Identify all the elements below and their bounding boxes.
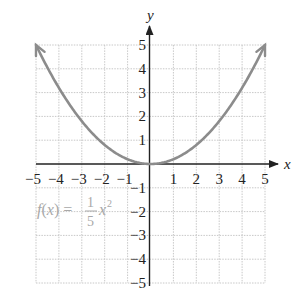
x-tick-labels: −5−4−3−2−112345 (25, 171, 269, 187)
y-axis-label: y (145, 7, 154, 23)
y-tick-label: −5 (130, 275, 146, 291)
y-tick-label: −1 (130, 180, 146, 196)
parabola-curve (36, 45, 265, 164)
y-tick-label: 3 (139, 85, 147, 101)
x-tick-label: 4 (238, 171, 246, 187)
svg-text:2: 2 (107, 198, 112, 209)
x-tick-label: −4 (48, 171, 64, 187)
x-axis-label: x (283, 156, 291, 172)
y-tick-label: −2 (130, 204, 146, 220)
y-tick-label: 1 (139, 132, 147, 148)
x-tick-label: −5 (25, 171, 41, 187)
svg-text:f(x) =: f(x) = (37, 201, 72, 219)
x-tick-label: 5 (261, 171, 269, 187)
y-tick-label: 2 (139, 108, 147, 124)
x-tick-label: 1 (170, 171, 178, 187)
y-tick-label: 4 (139, 61, 147, 77)
parabola-chart: x y −5−4−3−2−112345 54321−1−2−3−4−5 f(x)… (0, 0, 303, 303)
x-tick-label: 2 (193, 171, 201, 187)
svg-text:1: 1 (87, 195, 94, 210)
y-tick-label: −4 (130, 251, 146, 267)
curve-arrowheads (36, 45, 265, 56)
x-tick-label: 3 (215, 171, 223, 187)
x-tick-label: −3 (71, 171, 87, 187)
svg-text:5: 5 (87, 214, 94, 229)
y-tick-label: −3 (130, 227, 146, 243)
x-tick-label: −2 (94, 171, 110, 187)
svg-text:x: x (98, 201, 106, 218)
y-tick-label: 5 (139, 37, 147, 53)
